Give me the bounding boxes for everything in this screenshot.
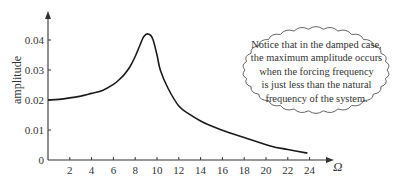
x-tick-label: 14	[195, 164, 207, 176]
y-ticks: 00.010.020.030.04	[25, 34, 51, 166]
x-tick-label: 10	[152, 164, 164, 176]
y-tick-label: 0.02	[25, 94, 44, 106]
y-axis-arrow-icon	[45, 11, 51, 19]
x-tick-label: 16	[217, 164, 229, 176]
x-tick-label: 24	[304, 164, 316, 176]
annotation-note: Notice that in the damped case, the maxi…	[249, 38, 384, 105]
note-line: frequency of the system.	[249, 92, 384, 105]
y-tick-label: 0.04	[25, 34, 45, 46]
note-line: Notice that in the damped case,	[249, 38, 384, 51]
x-tick-label: 4	[89, 164, 95, 176]
y-axis-label: amplitude	[10, 56, 24, 104]
x-tick-label: 8	[132, 164, 138, 176]
x-tick-label: 6	[111, 164, 117, 176]
x-tick-label: 22	[282, 164, 293, 176]
y-tick-label: 0	[39, 154, 45, 166]
y-tick-label: 0.03	[25, 64, 45, 76]
x-tick-label: 20	[261, 164, 273, 176]
x-tick-label: 18	[239, 164, 251, 176]
note-line: when the forcing frequency	[249, 65, 384, 78]
x-tick-label: 2	[67, 164, 73, 176]
note-line: is just less than the natural	[249, 78, 384, 91]
x-tick-label: 12	[173, 164, 184, 176]
x-axis-label: Ω	[333, 159, 342, 174]
y-tick-label: 0.01	[25, 124, 44, 136]
note-line: the maximum amplitude occurs	[249, 51, 384, 64]
